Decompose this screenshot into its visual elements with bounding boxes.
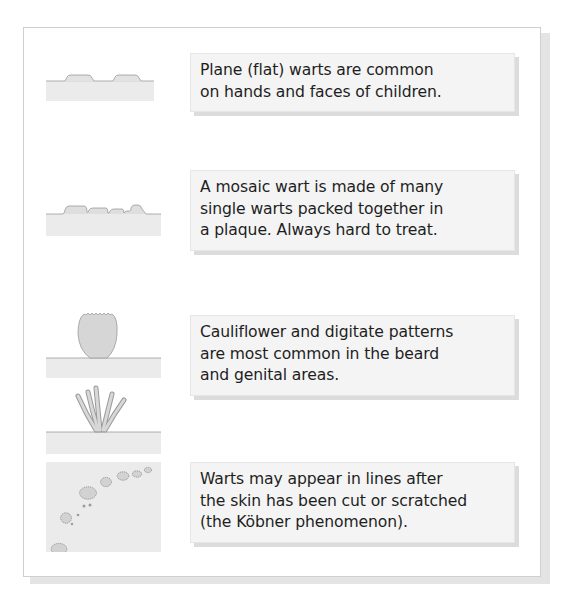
caption-line: are most common in the beard (200, 344, 506, 366)
caption-text: A mosaic wart is made of many single war… (190, 170, 515, 251)
caption-line: A mosaic wart is made of many (200, 177, 506, 199)
caption-line: on hands and faces of children. (200, 82, 506, 104)
caption-line: a plaque. Always hard to treat. (200, 220, 506, 242)
caption-box-koebner: Warts may appear in lines after the skin… (190, 462, 515, 543)
caption-text: Plane (flat) warts are common on hands a… (190, 53, 515, 112)
caption-line: Cauliflower and digitate patterns (200, 322, 506, 344)
caption-text: Warts may appear in lines after the skin… (190, 462, 515, 543)
cauliflower-digitate-wart-icon (46, 310, 161, 458)
caption-box-cauliflower-digitate: Cauliflower and digitate patterns are mo… (190, 315, 515, 396)
caption-line: the skin has been cut or scratched (200, 491, 506, 513)
caption-line: single warts packed together in (200, 199, 506, 221)
mosaic-wart-icon (46, 200, 161, 240)
caption-line: and genital areas. (200, 365, 506, 387)
plane-wart-icon (46, 71, 154, 101)
caption-box-mosaic: A mosaic wart is made of many single war… (190, 170, 515, 251)
caption-line: Warts may appear in lines after (200, 469, 506, 491)
caption-box-plane: Plane (flat) warts are common on hands a… (190, 53, 515, 112)
koebner-phenomenon-icon (46, 462, 161, 552)
caption-text: Cauliflower and digitate patterns are mo… (190, 315, 515, 396)
caption-line: Plane (flat) warts are common (200, 60, 506, 82)
figure-frame: Plane (flat) warts are common on hands a… (23, 27, 541, 577)
caption-line: (the Köbner phenomenon). (200, 512, 506, 534)
